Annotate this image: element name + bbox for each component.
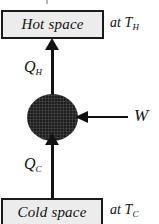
w-symbol: W <box>134 106 148 125</box>
cold-space-box: Cold space <box>1 198 103 224</box>
qc-flow-label: QC <box>24 155 42 174</box>
cold-temperature-subscript: C <box>132 209 138 219</box>
qc-subscript: C <box>36 164 42 174</box>
qh-flow-label: QH <box>24 58 42 77</box>
qh-subscript: H <box>36 67 43 77</box>
qc-symbol: Q <box>24 155 36 172</box>
cold-space-label: Cold space <box>17 204 86 221</box>
hot-temperature-subscript: H <box>132 22 139 32</box>
qh-arrow-shaft <box>51 48 54 96</box>
top-crop-artifact <box>46 0 48 4</box>
w-arrow-shaft <box>88 116 128 118</box>
hot-temperature-label: at TH <box>110 15 139 32</box>
w-flow-label: W <box>134 106 148 126</box>
hot-temperature-prefix: at T <box>110 15 132 30</box>
cold-temperature-label: at TC <box>110 202 138 219</box>
qh-symbol: Q <box>24 58 36 75</box>
cold-temperature-prefix: at T <box>110 202 132 217</box>
qc-arrow-shaft <box>51 141 54 199</box>
w-arrowhead-icon <box>75 111 88 123</box>
hot-space-label: Hot space <box>21 16 83 33</box>
heat-pump-cycle-diagram: Hot space at TH QH W QC Cold space at TC <box>0 0 159 224</box>
hot-space-box: Hot space <box>1 10 104 39</box>
